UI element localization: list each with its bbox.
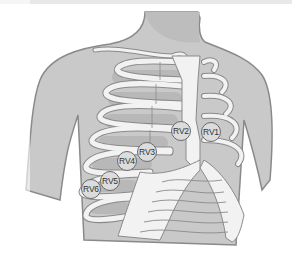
- chest-illustration: [0, 0, 292, 262]
- electrode-label: RV2: [173, 127, 189, 136]
- electrode-label: RV1: [203, 128, 219, 137]
- electrode-label: RV5: [102, 177, 118, 186]
- electrode-label: RV3: [139, 148, 155, 157]
- electrode-rv6: RV6: [81, 179, 101, 199]
- electrode-rv3: RV3: [137, 142, 157, 162]
- electrode-rv4: RV4: [117, 151, 137, 171]
- electrode-rv2: RV2: [171, 121, 191, 141]
- electrode-label: RV4: [119, 157, 135, 166]
- electrode-rv5: RV5: [100, 171, 120, 191]
- electrode-rv1: RV1: [201, 122, 221, 142]
- electrode-label: RV6: [83, 185, 99, 194]
